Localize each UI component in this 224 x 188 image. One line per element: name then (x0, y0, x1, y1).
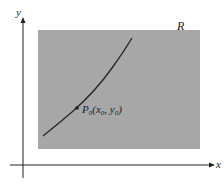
region-label: R (177, 19, 184, 34)
point-sub: 0 (89, 109, 93, 117)
point-name: P (82, 103, 89, 115)
y-axis-arrow-icon (21, 17, 26, 23)
y-axis-label: y (16, 6, 21, 18)
point-label: P0(x0, y0) (82, 103, 122, 117)
point-y-sub: 0 (115, 109, 119, 117)
region-r (38, 30, 200, 149)
x-axis-label: x (216, 158, 221, 170)
x-axis-arrow-icon (209, 163, 215, 168)
diagram-canvas (0, 0, 224, 188)
point-p0 (75, 106, 79, 110)
point-x-sub: 0 (101, 109, 105, 117)
